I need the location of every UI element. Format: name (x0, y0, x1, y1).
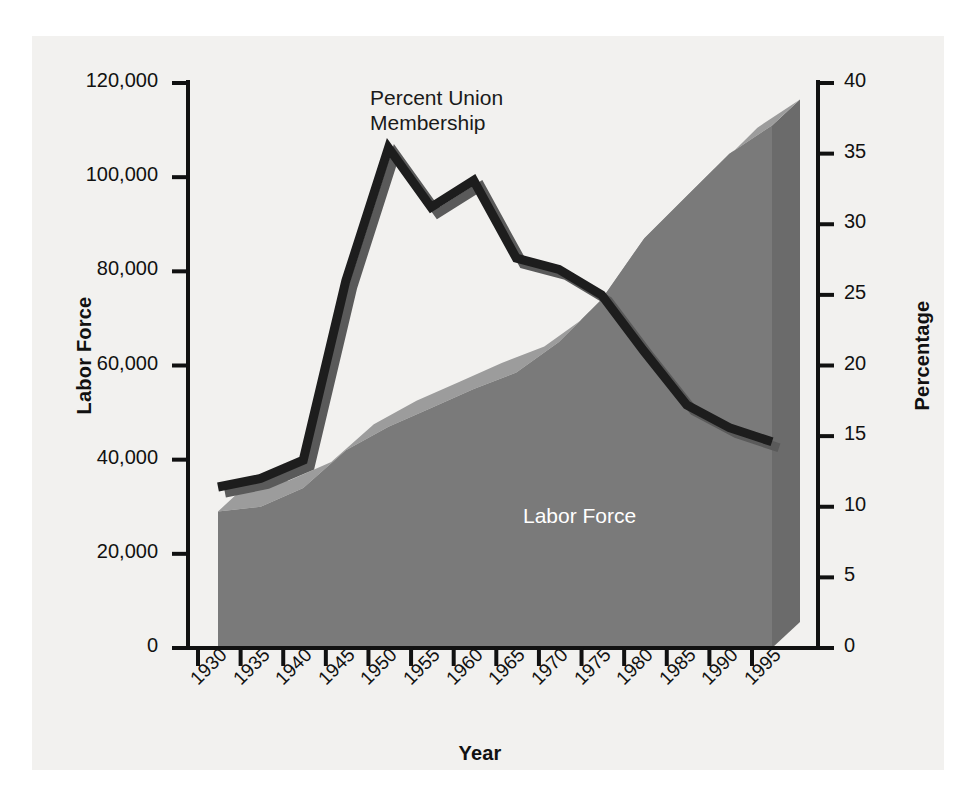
y-left-tick-label: 100,000 (0, 163, 158, 186)
y-axis-left-title: Labor Force (73, 266, 96, 446)
y-right-tick-label: 35 (844, 140, 866, 163)
y-right-tick-label: 20 (844, 352, 866, 375)
union-membership-annotation-line2: Membership (370, 111, 503, 136)
y-left-tick-label: 20,000 (0, 540, 158, 563)
x-axis-title: Year (380, 742, 580, 765)
y-left-tick-label: 40,000 (0, 446, 158, 469)
y-right-tick-label: 0 (844, 634, 855, 657)
y-right-tick-label: 30 (844, 210, 866, 233)
y-right-tick-label: 5 (844, 563, 855, 586)
y-right-tick-label: 15 (844, 422, 866, 445)
y-right-tick-label: 40 (844, 69, 866, 92)
union-membership-annotation: Percent Union Membership (370, 86, 503, 136)
y-axis-right-title: Percentage (911, 266, 934, 446)
labor-force-annotation: Labor Force (523, 504, 636, 529)
y-left-tick-label: 0 (0, 634, 158, 657)
y-right-tick-label: 10 (844, 493, 866, 516)
y-right-tick-label: 25 (844, 281, 866, 304)
labor-force-area-series (218, 99, 800, 648)
chart-figure: 0 20,000 40,000 60,000 80,000 100,000 12… (0, 0, 976, 805)
y-left-tick-label: 120,000 (0, 69, 158, 92)
union-membership-annotation-line1: Percent Union (370, 86, 503, 111)
